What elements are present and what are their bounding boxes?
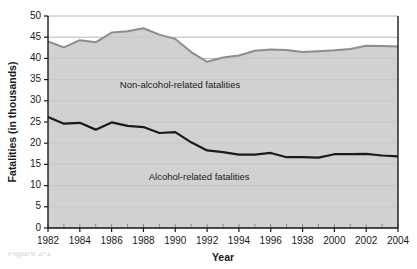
y-tick-label: 50 [30, 10, 42, 21]
x-tick-label: 2002 [355, 235, 378, 246]
y-tick-label: 35 [30, 73, 42, 84]
y-tick-label: 0 [35, 222, 41, 233]
y-tick-label: 10 [30, 179, 42, 190]
x-tick-label: 1988 [132, 235, 155, 246]
x-tick-label: 2000 [323, 235, 346, 246]
non-alcohol-series-label: Non-alcohol-related fatalities [120, 79, 241, 90]
x-tick-label: 1986 [101, 235, 124, 246]
x-tick-label: 2004 [387, 235, 410, 246]
x-tick-label: 1996 [260, 235, 283, 246]
x-tick-label: 1984 [69, 235, 92, 246]
alcohol-series-label: Alcohol-related fatalities [149, 171, 250, 182]
y-axis-title: Fatalities (in thousands) [6, 62, 18, 183]
figure-caption-fragment: Figure 2-1 [8, 252, 158, 266]
figure-caption-text: Figure 2-1 [8, 252, 158, 258]
x-tick-label: 1982 [37, 235, 60, 246]
y-tick-label: 25 [30, 116, 42, 127]
x-tick-label: 1990 [164, 235, 187, 246]
chart-figure: 05101520253035404550 1982198419861988199… [0, 0, 417, 269]
y-tick-label: 15 [30, 158, 42, 169]
x-tick-label: 1992 [196, 235, 219, 246]
y-tick-label: 30 [30, 94, 42, 105]
x-tick-label: 1938 [291, 235, 314, 246]
x-axis-title: Year [212, 251, 234, 263]
fatalities-area-chart: 05101520253035404550 1982198419861988199… [0, 0, 417, 269]
y-tick-label: 45 [30, 31, 42, 42]
y-tick-label: 5 [35, 200, 41, 211]
x-tick-label: 1994 [228, 235, 251, 246]
y-tick-label: 40 [30, 52, 42, 63]
y-tick-label: 20 [30, 137, 42, 148]
